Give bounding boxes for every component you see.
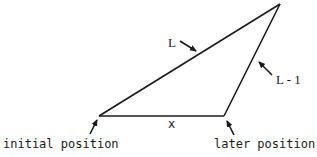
- arrow-L-minus-1: [259, 62, 272, 75]
- label-initial-position: initial position: [3, 138, 119, 150]
- label-later-position: later position: [214, 138, 315, 150]
- arrow-L: [180, 41, 196, 51]
- triangle-diagram: [0, 0, 317, 157]
- label-L: L: [168, 36, 176, 49]
- label-L-minus-1: L - 1: [276, 73, 301, 86]
- arrow-initial-position: [90, 120, 97, 134]
- label-x: x: [168, 118, 175, 130]
- arrow-later-position: [227, 121, 234, 135]
